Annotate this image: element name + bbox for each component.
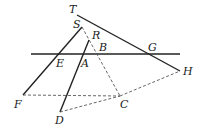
line-SF <box>23 27 82 95</box>
label-F: F <box>13 98 22 111</box>
dashed-line-DC <box>60 96 120 112</box>
point-labels: T S R B G E A H F C D <box>13 3 193 127</box>
geometry-diagram: T S R B G E A H F C D <box>0 0 201 135</box>
label-G: G <box>148 41 157 54</box>
label-A: A <box>80 57 89 70</box>
label-H: H <box>182 65 193 78</box>
label-T: T <box>69 3 78 16</box>
label-C: C <box>120 98 129 111</box>
dashed-lines <box>23 27 180 112</box>
label-S: S <box>73 18 81 31</box>
dashed-line-CH <box>120 71 180 96</box>
label-B: B <box>98 41 107 54</box>
label-E: E <box>55 57 64 70</box>
line-RD <box>60 40 89 112</box>
line-TH <box>77 15 180 71</box>
dashed-line-FC <box>23 95 120 96</box>
label-D: D <box>54 114 64 127</box>
solid-lines <box>23 15 180 112</box>
